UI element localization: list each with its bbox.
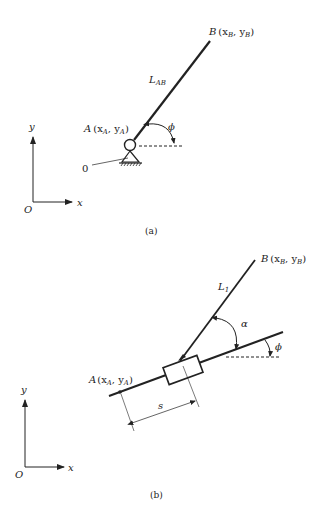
point-b-label-b: B(xB, yB) xyxy=(260,253,306,266)
link-l1-label: L1 xyxy=(217,281,229,294)
slider-block xyxy=(163,355,203,384)
axis-y-label-b: y xyxy=(20,384,27,395)
angle-phi-label: ϕ xyxy=(168,121,175,132)
point-b-label: B(xB, yB) xyxy=(208,26,254,39)
angle-alpha-label: α xyxy=(241,318,248,329)
point-a-label-b: A(xA, yA) xyxy=(88,374,133,387)
origin-label: O xyxy=(24,204,32,215)
figure-a: 0 B(xB, yB) LAB A(xA, yA) ϕ y x O (a) xyxy=(24,26,254,236)
angle-alpha-arc xyxy=(216,318,237,349)
origin-label-b: O xyxy=(15,469,23,480)
ground-label: 0 xyxy=(82,163,88,174)
axis-x-label-b: x xyxy=(68,462,74,473)
axes-a: y x O xyxy=(24,121,83,215)
caption-a: (a) xyxy=(145,226,157,236)
distance-s-label: s xyxy=(158,400,163,411)
figure-b: s B(xB, yB) L1 A(xA, yA) α ϕ y x O (b) xyxy=(15,253,306,500)
angle-phi-arc-b xyxy=(265,340,270,356)
angle-phi-label-b: ϕ xyxy=(275,341,282,352)
axis-y-label: y xyxy=(28,121,35,132)
dimension-extension-a xyxy=(121,394,134,431)
pivot-a xyxy=(125,140,136,151)
ground-support xyxy=(122,151,139,162)
point-a-dot xyxy=(118,390,122,394)
axis-x-label: x xyxy=(77,197,83,208)
kinematics-diagram: 0 B(xB, yB) LAB A(xA, yA) ϕ y x O (a) xyxy=(0,0,324,510)
dimension-line-s xyxy=(132,401,195,423)
caption-b: (b) xyxy=(150,490,163,500)
link-ab-label: LAB xyxy=(148,74,166,87)
point-a-label: A(xA, yA) xyxy=(83,123,129,136)
axes-b: y x O xyxy=(15,384,74,480)
